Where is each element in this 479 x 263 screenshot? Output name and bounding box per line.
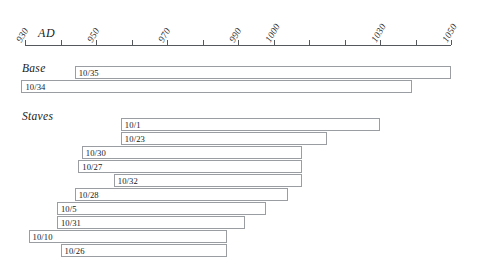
bar-10-10[interactable]: 10/10 — [29, 230, 228, 243]
group-heading-staves: Staves — [22, 110, 53, 122]
axis-tick-1020 — [345, 40, 346, 45]
bar-label: 10/30 — [86, 147, 106, 159]
axis-tick-1040 — [416, 40, 417, 45]
axis-tick-label-970: 970 — [156, 26, 172, 44]
bar-label: 10/34 — [25, 81, 45, 93]
axis-tick-label-930: 930 — [14, 26, 30, 44]
axis-tick-970 — [167, 40, 168, 45]
bar-label: 10/27 — [82, 161, 102, 173]
time-axis: 930950970990100010301050 AD — [0, 0, 479, 52]
bar-label: 10/26 — [65, 245, 85, 257]
axis-tick-label-1050: 1050 — [440, 22, 459, 44]
bar-label: 10/5 — [61, 203, 77, 215]
axis-tick-label-1000: 1000 — [263, 22, 282, 44]
bar-10-31[interactable]: 10/31 — [57, 216, 245, 229]
bar-10-32[interactable]: 10/32 — [114, 174, 302, 187]
bar-10-23[interactable]: 10/23 — [121, 132, 327, 145]
bar-label: 10/35 — [79, 67, 99, 79]
bar-10-28[interactable]: 10/28 — [75, 188, 288, 201]
bar-10-26[interactable]: 10/26 — [61, 244, 228, 257]
axis-unit-label: AD — [38, 26, 55, 41]
bar-label: 10/32 — [118, 175, 138, 187]
axis-tick-930 — [25, 40, 26, 45]
bar-10-30[interactable]: 10/30 — [82, 146, 302, 159]
bar-10-5[interactable]: 10/5 — [57, 202, 266, 215]
bar-label: 10/28 — [79, 189, 99, 201]
group-heading-base: Base — [22, 62, 46, 74]
axis-tick-label-990: 990 — [227, 26, 243, 44]
bar-label: 10/10 — [33, 231, 53, 243]
axis-tick-1010 — [309, 40, 310, 45]
axis-tick-1050 — [451, 40, 452, 45]
bar-10-27[interactable]: 10/27 — [78, 160, 302, 173]
bar-10-34[interactable]: 10/34 — [21, 80, 412, 93]
axis-tick-label-950: 950 — [85, 26, 101, 44]
axis-line — [25, 45, 451, 46]
bar-10-35[interactable]: 10/35 — [75, 66, 451, 79]
axis-tick-980 — [203, 40, 204, 45]
bar-10-1[interactable]: 10/1 — [121, 118, 380, 131]
axis-tick-990 — [238, 40, 239, 45]
axis-tick-label-1030: 1030 — [369, 22, 388, 44]
axis-tick-960 — [132, 40, 133, 45]
bar-label: 10/23 — [125, 133, 145, 145]
bar-label: 10/1 — [125, 119, 141, 131]
axis-tick-1030 — [380, 40, 381, 45]
axis-tick-940 — [61, 40, 62, 45]
timeline-chart: 930950970990100010301050 AD Base10/3510/… — [0, 0, 479, 263]
bar-label: 10/31 — [61, 217, 81, 229]
axis-tick-950 — [96, 40, 97, 45]
